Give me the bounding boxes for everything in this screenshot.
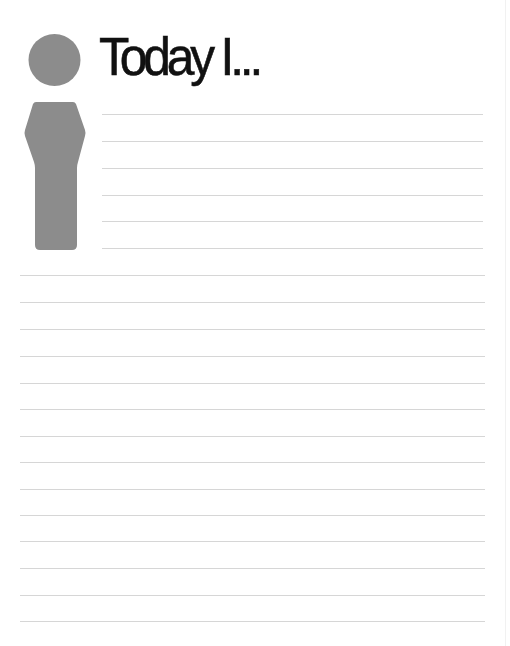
person-info-icon: [0, 0, 100, 260]
full-writing-line-14: [20, 621, 485, 622]
full-writing-line-3: [20, 329, 485, 330]
full-writing-line-8: [20, 462, 485, 463]
short-writing-line-6: [102, 248, 483, 249]
short-writing-line-5: [102, 221, 483, 222]
short-writing-line-2: [102, 141, 483, 142]
short-writing-line-4: [102, 195, 483, 196]
figure-body: [25, 102, 86, 250]
figure-head: [29, 34, 81, 86]
full-writing-line-6: [20, 409, 485, 410]
full-writing-line-5: [20, 383, 485, 384]
full-writing-line-2: [20, 302, 485, 303]
full-writing-line-11: [20, 541, 485, 542]
short-writing-line-1: [102, 114, 483, 115]
worksheet-page: Today I...: [0, 0, 510, 646]
full-writing-line-7: [20, 436, 485, 437]
full-writing-line-12: [20, 568, 485, 569]
full-writing-line-10: [20, 515, 485, 516]
full-writing-line-4: [20, 356, 485, 357]
page-edge: [505, 0, 506, 646]
short-writing-line-3: [102, 168, 483, 169]
full-writing-line-13: [20, 595, 485, 596]
full-writing-line-9: [20, 489, 485, 490]
full-writing-line-1: [20, 275, 485, 276]
page-title: Today I...: [99, 26, 259, 86]
